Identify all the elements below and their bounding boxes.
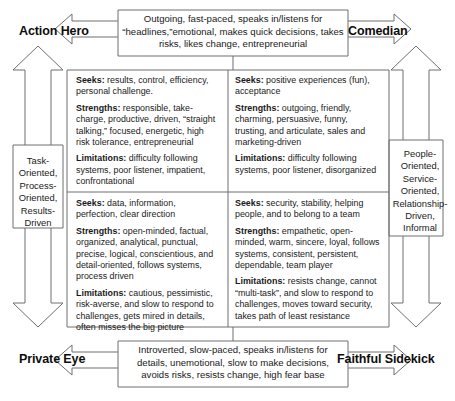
quad-br-limitations: Limitations: resists change, cannot “mul… — [235, 276, 383, 322]
quadrant-bottom-left: Seeks: data, information, perfection, cl… — [76, 198, 219, 333]
right-axis-label: People-Oriented, Service-Oriented, Relat… — [389, 148, 451, 235]
quad-tr-seeks: Seeks: positive experiences (fun), accep… — [235, 75, 380, 98]
corner-label-faithful-sidekick: Faithful Sidekick — [337, 352, 435, 366]
quad-tr-limitations-label: Limitations: — [235, 153, 285, 163]
quad-br-strengths-label: Strengths: — [235, 226, 279, 236]
diagram-canvas: Action Hero Comedian Private Eye Faithfu… — [0, 0, 455, 401]
arrow-right-up — [391, 46, 441, 140]
corner-label-private-eye: Private Eye — [19, 352, 85, 366]
arrow-left-up — [13, 46, 63, 145]
quad-bl-limitations: Limitations: cautious, pessimistic, risk… — [76, 288, 219, 334]
quad-bl-strengths: Strengths: open-minded, factual, organiz… — [76, 226, 219, 283]
connector-layer — [0, 0, 455, 401]
quad-bl-seeks: Seeks: data, information, perfection, cl… — [76, 198, 219, 221]
top-banner-text: Outgoing, fast-paced, speaks in/listens … — [122, 13, 344, 51]
quad-br-seeks-label: Seeks: — [235, 198, 264, 208]
quad-tr-strengths-label: Strengths: — [235, 103, 279, 113]
quad-tl-seeks-label: Seeks: — [76, 75, 105, 85]
quad-tl-strengths-label: Strengths: — [76, 103, 120, 113]
quad-tl-strengths: Strengths: responsible, take-charge, pro… — [76, 103, 216, 149]
arrow-left-down — [13, 228, 63, 327]
quadrant-bottom-right: Seeks: security, stability, helping peop… — [235, 198, 383, 322]
quad-tl-seeks: Seeks: results, control, efficiency, per… — [76, 75, 216, 98]
quad-tr-limitations: Limitations: difficulty following system… — [235, 153, 380, 176]
quad-br-strengths: Strengths: empathetic, open-minded, warm… — [235, 226, 383, 272]
quad-tl-limitations: Limitations: difficulty following system… — [76, 153, 216, 187]
quadrant-top-left: Seeks: results, control, efficiency, per… — [76, 75, 216, 188]
corner-label-comedian: Comedian — [348, 24, 408, 38]
quad-bl-limitations-label: Limitations: — [76, 288, 126, 298]
quadrant-top-right: Seeks: positive experiences (fun), accep… — [235, 75, 380, 176]
quad-br-seeks: Seeks: security, stability, helping peop… — [235, 198, 383, 221]
quad-bl-strengths-label: Strengths: — [76, 226, 120, 236]
quad-tr-seeks-label: Seeks: — [235, 75, 264, 85]
bottom-banner-text: Introverted, slow-paced, speaks in/liste… — [122, 344, 344, 382]
left-axis-label: Task-Oriented, Process-Oriented, Results… — [13, 155, 63, 229]
corner-label-action-hero: Action Hero — [19, 24, 89, 38]
quad-tr-strengths: Strengths: outgoing, friendly, charming,… — [235, 103, 380, 149]
quad-br-limitations-label: Limitations: — [235, 276, 285, 286]
quad-tl-limitations-label: Limitations: — [76, 153, 126, 163]
quad-bl-seeks-label: Seeks: — [76, 198, 105, 208]
arrow-right-down — [391, 236, 441, 327]
